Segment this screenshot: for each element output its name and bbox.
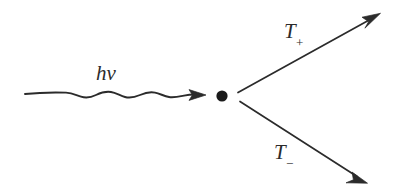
t-minus-label-subscript: − xyxy=(286,156,293,171)
interaction-vertex-dot xyxy=(216,90,227,101)
photon-wavy-line xyxy=(25,92,201,98)
upper-particle-line xyxy=(238,19,371,93)
hv-label: hν xyxy=(96,63,116,84)
t-minus-label-base: T xyxy=(274,140,286,164)
lower-particle-line xyxy=(240,102,357,177)
physics-diagram: hν T+ T− xyxy=(0,0,397,195)
t-minus-label: T− xyxy=(274,142,293,166)
hv-label-text: hν xyxy=(96,61,116,85)
lower-particle-arrowhead xyxy=(346,172,368,183)
t-plus-label-base: T xyxy=(284,19,296,43)
t-plus-label-subscript: + xyxy=(296,35,303,50)
t-plus-label: T+ xyxy=(284,21,303,45)
upper-particle-arrowhead xyxy=(362,13,381,28)
diagram-canvas xyxy=(0,0,397,195)
